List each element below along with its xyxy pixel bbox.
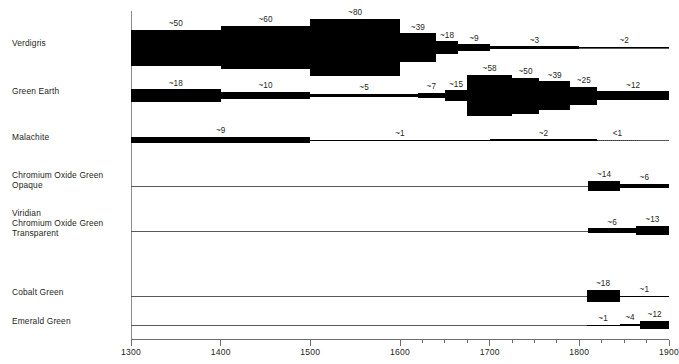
bar-segment bbox=[512, 78, 539, 114]
x-axis-minor-tick bbox=[422, 340, 423, 344]
bar-segment bbox=[588, 228, 636, 232]
bar-value-label: ~50 bbox=[169, 19, 183, 28]
bar-value-label: ~9 bbox=[469, 34, 479, 43]
bar-segment bbox=[445, 90, 467, 101]
x-axis-minor-tick bbox=[444, 340, 445, 344]
bar-value-label: ~18 bbox=[169, 79, 183, 88]
x-axis-tick-label: 1700 bbox=[480, 347, 500, 357]
bar-segment bbox=[310, 140, 489, 141]
bar-value-label: ~2 bbox=[539, 129, 549, 138]
bar-segment bbox=[131, 89, 221, 102]
bar-value-label: ~50 bbox=[518, 67, 532, 76]
bar-value-label: ~10 bbox=[258, 81, 272, 90]
bar-value-label: ~6 bbox=[640, 173, 650, 182]
x-axis-tick-label: 1800 bbox=[569, 347, 589, 357]
bar-segment bbox=[400, 33, 436, 61]
bar-value-label: ~7 bbox=[427, 82, 437, 91]
x-axis-minor-tick bbox=[556, 340, 557, 344]
bar-segment bbox=[310, 19, 400, 77]
x-axis-tick-label: 1600 bbox=[390, 347, 410, 357]
x-axis-major-tick bbox=[579, 340, 580, 346]
bar-segment bbox=[579, 47, 669, 48]
bar-segment bbox=[597, 91, 669, 100]
bar-value-label: ~1 bbox=[395, 129, 405, 138]
x-axis-minor-tick bbox=[512, 340, 513, 344]
bar-segment bbox=[458, 44, 489, 50]
bar-value-label: ~39 bbox=[548, 71, 562, 80]
bar-value-label: ~18 bbox=[596, 279, 610, 288]
bar-segment bbox=[620, 296, 669, 297]
bar-value-label: ~14 bbox=[597, 170, 611, 179]
x-axis-minor-tick bbox=[467, 340, 468, 344]
x-axis-tick-label: 1900 bbox=[659, 347, 679, 357]
x-axis-major-tick bbox=[489, 340, 490, 346]
bar-segment bbox=[587, 290, 620, 303]
bar-value-label: ~60 bbox=[258, 15, 272, 24]
bar-segment bbox=[310, 94, 418, 98]
row-label-cobalt-green: Cobalt Green bbox=[12, 287, 64, 297]
x-axis-minor-tick bbox=[646, 340, 647, 344]
bar-segment bbox=[490, 139, 598, 140]
x-axis-major-tick bbox=[400, 340, 401, 346]
row-label-viridian-chromium-oxide-green-transparent: Viridian Chromium Oxide Green Transparen… bbox=[12, 208, 103, 239]
bar-segment bbox=[588, 181, 619, 191]
bar-value-label: ~18 bbox=[440, 31, 454, 40]
bar-value-label: ~5 bbox=[359, 83, 369, 92]
x-axis-tick-label: 1300 bbox=[121, 347, 141, 357]
bar-value-label: ~12 bbox=[648, 310, 662, 319]
bar-value-label: ~39 bbox=[411, 23, 425, 32]
bar-segment bbox=[467, 75, 512, 117]
x-axis-tick-label: 1500 bbox=[300, 347, 320, 357]
bar-segment bbox=[587, 325, 620, 326]
bar-segment bbox=[539, 81, 570, 109]
bar-value-label: ~2 bbox=[619, 36, 629, 45]
bar-segment bbox=[490, 46, 580, 48]
bar-segment bbox=[436, 41, 458, 54]
x-axis-tick-label: 1400 bbox=[211, 347, 231, 357]
bar-segment bbox=[640, 321, 669, 330]
row-label-chromium-oxide-green-opaque: Chromium Oxide Green Opaque bbox=[12, 170, 103, 190]
x-axis-minor-tick bbox=[601, 340, 602, 344]
bar-value-label: ~58 bbox=[483, 64, 497, 73]
row-label-emerald-green: Emerald Green bbox=[12, 316, 71, 326]
x-axis-major-tick bbox=[131, 340, 132, 346]
x-axis-major-tick bbox=[669, 340, 670, 346]
x-axis-minor-tick bbox=[624, 340, 625, 344]
bar-value-label: ~15 bbox=[449, 80, 463, 89]
bar-segment bbox=[570, 87, 597, 105]
bar-segment bbox=[131, 30, 221, 66]
bar-segment bbox=[597, 140, 637, 141]
bar-value-label: <1 bbox=[613, 129, 623, 138]
bar-value-label: ~3 bbox=[530, 36, 540, 45]
row-label-green-earth: Green Earth bbox=[12, 86, 59, 96]
bar-segment bbox=[418, 93, 445, 98]
x-axis-minor-tick bbox=[534, 340, 535, 344]
bar-value-label: ~9 bbox=[216, 126, 226, 135]
row-label-malachite: Malachite bbox=[12, 132, 49, 142]
x-axis-major-tick bbox=[310, 340, 311, 346]
bar-segment bbox=[221, 92, 311, 99]
bar-segment bbox=[620, 184, 669, 188]
bar-value-label: ~12 bbox=[626, 81, 640, 90]
x-axis-major-tick bbox=[220, 340, 221, 346]
bar-value-label: ~13 bbox=[645, 215, 659, 224]
bar-segment bbox=[636, 226, 669, 235]
bar-value-label: ~6 bbox=[607, 218, 617, 227]
bar-value-label: ~1 bbox=[640, 285, 650, 294]
bar-value-label: ~4 bbox=[625, 313, 635, 322]
bar-value-label: ~25 bbox=[577, 76, 591, 85]
bar-segment bbox=[221, 26, 311, 69]
bar-segment bbox=[620, 324, 641, 327]
bar-segment bbox=[131, 137, 310, 143]
bar-value-label: ~80 bbox=[348, 8, 362, 17]
row-label-verdigris: Verdigris bbox=[12, 38, 46, 48]
bar-value-label: ~1 bbox=[598, 314, 608, 323]
